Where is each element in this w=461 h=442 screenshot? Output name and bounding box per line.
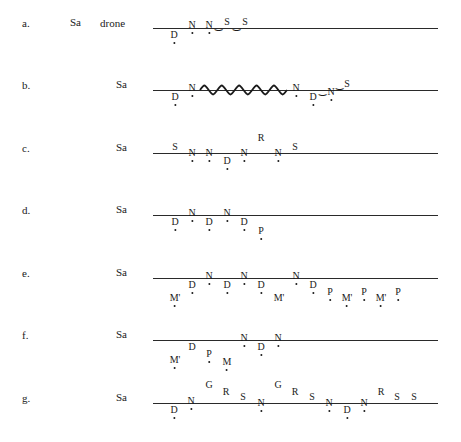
tone-symbol: D [170,404,177,415]
tone-symbol: D [257,279,264,290]
lower-octave-dot-icon [330,99,332,101]
tone-mark: D [309,280,316,294]
reference-line [153,340,438,341]
tone-mark: D [257,280,264,294]
contour-row: f.SaM'DPMNDN [0,340,461,341]
lower-octave-dot-icon [173,417,175,419]
tone-symbol: S [411,391,417,402]
tone-mark: D [240,217,247,231]
tone-symbol: N [360,397,367,408]
tone-symbol: N [188,207,195,218]
tone-mark: S [309,392,315,402]
sa-label: Sa [116,141,127,153]
tone-symbol: M' [376,292,387,303]
tone-symbol: M' [170,292,181,303]
lower-octave-dot-icon [277,345,279,347]
tone-symbol: M' [342,292,353,303]
tone-symbol: S [292,141,298,152]
tone-mark: D [170,405,177,419]
tone-symbol: N [188,19,195,30]
tone-mark: M' [170,355,181,369]
lower-octave-dot-icon [174,104,176,106]
tone-symbol: D [309,279,316,290]
tone-mark: N [274,148,281,162]
tone-symbol: S [172,141,178,152]
tone-mark: N [240,271,247,285]
tone-mark: R [258,133,265,143]
tone-symbol: S [309,391,315,402]
tone-symbol: R [292,386,299,397]
contour-row: a.SadroneDNN‿S‿S [0,28,461,29]
tone-mark: N [327,87,334,101]
tone-mark: M' [376,293,387,307]
tone-mark: G [205,380,212,390]
tone-mark: G [274,380,281,390]
tone-mark: M' [274,293,285,303]
lower-octave-dot-icon [226,292,228,294]
tone-symbol: ‿ [319,86,326,96]
lower-octave-dot-icon [295,95,297,97]
contour-row: e.SaM'DNDNDM'NDPM'PM'P [0,278,461,279]
tone-symbol: N [205,147,212,158]
tone-mark: P [327,287,333,301]
tone-mark: N [187,396,194,410]
tone-mark: D [171,217,178,231]
reference-line [153,403,438,404]
contour-row: d.SaDNDNDP [0,215,461,216]
row-label: b. [22,79,30,91]
lower-octave-dot-icon [397,299,399,301]
lower-octave-dot-icon [208,229,210,231]
sa-label: Sa [116,391,127,403]
tone-symbol: P [258,225,264,236]
tone-mark: D [205,217,212,231]
lower-octave-dot-icon [226,369,228,371]
tone-mark: N [205,271,212,285]
tone-symbol: M' [170,354,181,365]
tone-mark: S [240,392,246,402]
sa-label: Sa [116,266,127,278]
tone-symbol: N [240,270,247,281]
tone-mark: S [394,392,400,402]
tone-mark: D [309,92,316,106]
sa-label: Sa [116,78,127,90]
tone-symbol: S [344,78,350,89]
tone-symbol: ‿ [215,21,222,31]
tone-mark: N [205,20,212,34]
lower-octave-dot-icon [380,305,382,307]
lower-octave-dot-icon [174,229,176,231]
lower-octave-dot-icon [174,367,176,369]
row-label: c. [22,142,30,154]
tone-mark: N [240,333,247,347]
tone-mark: S [411,392,417,402]
reference-line [153,153,438,154]
oscillation-wave-icon [200,85,287,95]
tone-symbol: S [224,16,230,27]
tone-symbol: D [240,216,247,227]
tone-mark: R [223,387,230,397]
tone-symbol: N [188,82,195,93]
tone-mark: M [223,357,232,371]
lower-octave-dot-icon [312,104,314,106]
tone-symbol: N [327,86,334,97]
tone-symbol: D [188,341,195,352]
tone-symbol: P [395,286,401,297]
tone-symbol: M [223,356,232,367]
tone-symbol: N [223,207,230,218]
tone-symbol: D [171,91,178,102]
tone-symbol: P [361,286,367,297]
tone-mark: S [224,17,230,27]
tone-symbol: D [343,404,350,415]
tone-symbol: G [205,379,212,390]
tone-mark: N [292,271,299,285]
lower-octave-dot-icon [226,168,228,170]
tone-mark: D [188,342,195,352]
row-label: e. [22,267,30,279]
tone-symbol: P [327,286,333,297]
lower-octave-dot-icon [328,410,330,412]
tone-symbol: ‿ [336,80,343,90]
tone-mark: P [395,287,401,301]
lower-octave-dot-icon [190,408,192,410]
lower-octave-dot-icon [243,345,245,347]
tone-symbol: S [242,16,248,27]
slur-link-icon: ‿ [336,81,343,90]
